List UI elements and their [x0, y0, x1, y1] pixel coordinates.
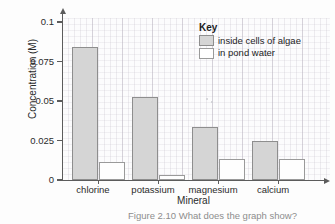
bar-chart-figure: 0 0.025 0.05 0.075 0.1 Concentration (M)…: [0, 0, 335, 206]
bar-magnesium-water: [219, 159, 245, 180]
x-tick-label-magnesium: magnesium: [188, 185, 237, 195]
bar-magnesium-algae: [192, 127, 218, 180]
y-tick-label-2: 0.05: [36, 96, 55, 106]
legend-item-algae: inside cells of algae: [199, 35, 326, 46]
chart-screenshot: 0 0.025 0.05 0.075 0.1 Concentration (M)…: [0, 0, 335, 224]
x-tick-label-chlorine: chlorine: [76, 185, 109, 195]
legend-label-algae: inside cells of algae: [218, 36, 301, 46]
bar-potassium-water: [159, 175, 185, 180]
x-axis-line: [62, 180, 325, 181]
chart-legend: Key inside cells of algae in pond water: [196, 20, 328, 62]
bar-chlorine-algae: [72, 47, 98, 180]
legend-item-water: in pond water: [199, 48, 326, 59]
y-axis-arrow-icon: [60, 8, 66, 14]
bar-chlorine-water: [99, 162, 125, 180]
legend-title: Key: [199, 22, 326, 33]
x-axis-title: Mineral: [62, 196, 325, 206]
bar-calcium-algae: [252, 141, 278, 180]
x-tick-label-potassium: potassium: [131, 185, 174, 195]
bar-calcium-water: [279, 159, 305, 180]
y-tick-label-4: 0.1: [41, 17, 54, 27]
legend-swatch-algae-icon: [199, 35, 214, 46]
legend-swatch-water-icon: [199, 48, 214, 59]
legend-label-water: in pond water: [218, 48, 275, 58]
bar-potassium-algae: [132, 97, 158, 180]
figure-caption: Figure 2.10 What does the graph show?: [128, 211, 335, 221]
x-tick-label-calcium: calcium: [257, 185, 289, 195]
y-tick-label-0: 0: [49, 175, 54, 185]
y-axis-title: Concentration (M): [28, 0, 38, 159]
